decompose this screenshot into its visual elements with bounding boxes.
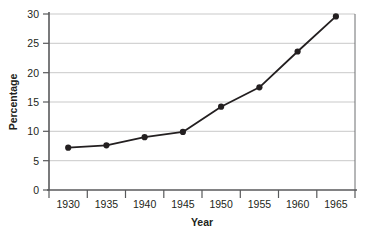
data-point-1955 <box>256 84 262 90</box>
data-point-1950 <box>218 104 224 110</box>
chart-figure: 30 25 20 15 10 5 0 1930 1935 1940 1945 <box>0 0 383 237</box>
y-tick-label-25: 25 <box>27 37 39 49</box>
x-tick-label-1955: 1955 <box>248 198 272 210</box>
x-tick-label-1945: 1945 <box>171 198 195 210</box>
data-point-1965 <box>333 13 339 19</box>
x-tick-label-1950: 1950 <box>209 198 233 210</box>
y-axis-tick-labels: 30 25 20 15 10 5 0 <box>27 8 39 196</box>
line-chart: 30 25 20 15 10 5 0 1930 1935 1940 1945 <box>0 0 383 237</box>
x-tick-label-1940: 1940 <box>133 198 157 210</box>
x-tick-label-1935: 1935 <box>95 198 119 210</box>
data-point-1960 <box>295 48 301 54</box>
x-axis-title: Year <box>191 216 213 228</box>
y-axis-title: Percentage <box>7 74 19 131</box>
x-tick-label-1965: 1965 <box>324 198 348 210</box>
data-point-1940 <box>142 134 148 140</box>
y-tick-label-30: 30 <box>27 8 39 20</box>
y-tick-label-0: 0 <box>33 184 39 196</box>
x-axis-tick-labels: 1930 1935 1940 1945 1950 1955 1960 1965 <box>57 198 348 210</box>
data-point-1935 <box>103 142 109 148</box>
y-tick-label-5: 5 <box>33 155 39 167</box>
data-point-1945 <box>180 129 186 135</box>
y-tick-label-15: 15 <box>27 96 39 108</box>
y-tick-label-10: 10 <box>27 125 39 137</box>
data-point-1930 <box>65 145 71 151</box>
y-axis-ticks <box>43 14 49 190</box>
x-tick-label-1960: 1960 <box>286 198 310 210</box>
y-tick-label-20: 20 <box>27 67 39 79</box>
x-axis-ticks <box>49 190 355 198</box>
x-tick-label-1930: 1930 <box>57 198 81 210</box>
